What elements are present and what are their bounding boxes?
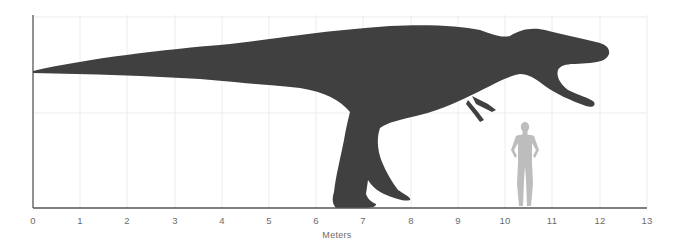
- tick-label-3: 3: [172, 215, 177, 226]
- tick-label-5: 5: [266, 215, 271, 226]
- tick-label-4: 4: [219, 215, 224, 226]
- tick-label-2: 2: [124, 215, 129, 226]
- x-axis-title: Meters: [322, 230, 351, 240]
- size-comparison-diagram: [0, 0, 683, 248]
- human-silhouette: [511, 122, 539, 206]
- tick-label-7: 7: [360, 215, 365, 226]
- tick-label-9: 9: [455, 215, 460, 226]
- tick-label-6: 6: [313, 215, 318, 226]
- tick-label-10: 10: [500, 215, 511, 226]
- tick-label-8: 8: [408, 215, 413, 226]
- tick-label-13: 13: [642, 215, 653, 226]
- tick-label-11: 11: [547, 215, 557, 226]
- tick-label-0: 0: [30, 215, 35, 226]
- tick-label-1: 1: [77, 215, 82, 226]
- tick-label-12: 12: [595, 215, 606, 226]
